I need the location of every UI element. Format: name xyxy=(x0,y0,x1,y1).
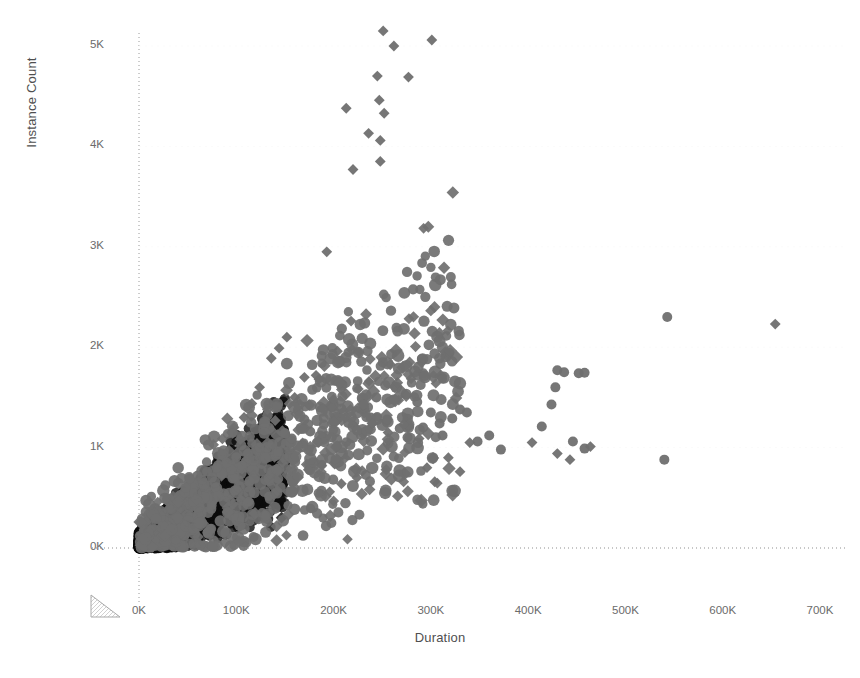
y-tick-label: 5K xyxy=(60,38,104,50)
mid-density-cluster xyxy=(133,186,466,553)
y-tick-label: 3K xyxy=(60,239,104,251)
data-points-layer xyxy=(133,26,780,554)
y-tick-label: 2K xyxy=(60,339,104,351)
x-tick-label: 300K xyxy=(401,604,461,616)
x-tick-label: 600K xyxy=(693,604,753,616)
x-axis-title: Duration xyxy=(0,630,860,645)
y-tick-label: 0K xyxy=(60,540,104,552)
x-tick-label: 400K xyxy=(498,604,558,616)
x-tick-label: 200K xyxy=(304,604,364,616)
resize-handle-icon[interactable] xyxy=(89,592,125,620)
plot-canvas[interactable] xyxy=(0,0,860,678)
scatter-plot-chart: Instance Count Duration 0K1K2K3K4K5K 0K1… xyxy=(0,0,860,678)
y-axis-title: Instance Count xyxy=(24,48,39,158)
x-tick-label: 500K xyxy=(595,604,655,616)
faint-gridlines xyxy=(139,46,846,448)
x-tick-label: 100K xyxy=(206,604,266,616)
x-tick-label: 700K xyxy=(790,604,850,616)
y-tick-label: 4K xyxy=(60,138,104,150)
y-tick-label: 1K xyxy=(60,440,104,452)
